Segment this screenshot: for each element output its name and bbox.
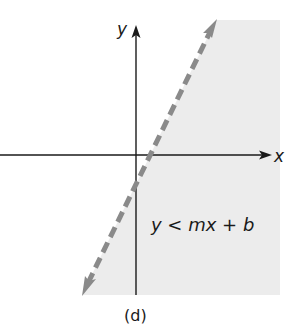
x-axis-label: x xyxy=(273,146,285,166)
figure-caption: (d) xyxy=(124,306,147,325)
inequality-label: y < mx + b xyxy=(150,214,254,235)
inequality-graph: x y y < mx + b (d) xyxy=(0,0,294,331)
shaded-region xyxy=(82,20,280,295)
y-axis-label: y xyxy=(116,19,128,39)
